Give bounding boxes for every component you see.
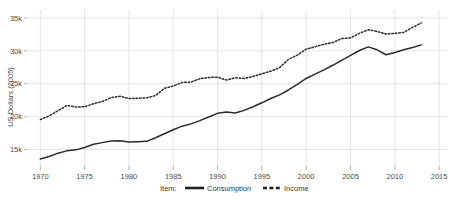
legend-label-income: Income: [284, 184, 309, 193]
x-tick-label: 2010: [386, 172, 403, 181]
x-tick-label: 2000: [298, 172, 315, 181]
y-tick-label: 35k: [10, 14, 22, 23]
x-tick-label: 2005: [342, 172, 359, 181]
y-axis-title: US Dollars (2005): [6, 67, 15, 127]
x-tick-label: 1985: [165, 172, 182, 181]
data-series-group: [40, 23, 421, 159]
y-tick-label: 15k: [10, 145, 22, 154]
chart-canvas: 15k20k25k30k35k 197019751980198519901995…: [0, 0, 454, 202]
x-axis-tick-labels: 1970197519801985199019952000200520102015: [32, 172, 448, 181]
series-line-consumption: [40, 45, 421, 159]
y-tick-label: 30k: [10, 47, 22, 56]
chart-legend: Item: Consumption Income: [160, 184, 309, 193]
x-tick-label: 1990: [209, 172, 226, 181]
legend-title: Item:: [160, 184, 177, 193]
x-tick-label: 1995: [254, 172, 271, 181]
legend-label-consumption: Consumption: [207, 184, 251, 193]
series-line-income: [40, 23, 421, 120]
line-chart: 15k20k25k30k35k 197019751980198519901995…: [0, 0, 454, 202]
x-tick-label: 1980: [121, 172, 138, 181]
x-tick-label: 1970: [32, 172, 49, 181]
x-tick-label: 2015: [431, 172, 448, 181]
x-tick-label: 1975: [76, 172, 93, 181]
